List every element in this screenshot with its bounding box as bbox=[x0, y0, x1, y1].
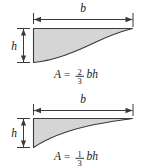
lower-region-shape bbox=[34, 119, 133, 148]
upper-height-label: h bbox=[11, 40, 17, 52]
lower-formula-numerator: 1 bbox=[77, 149, 81, 159]
lower-height-dimension: h bbox=[11, 119, 30, 148]
upper-area-formula: A = 2 3 bh bbox=[53, 67, 98, 87]
upper-formula-symbol: A bbox=[53, 68, 62, 80]
upper-formula-denominator: 3 bbox=[77, 76, 81, 86]
lower-area-formula: A = 1 3 bh bbox=[53, 149, 98, 168]
geometry-figure: b h A = 2 bbox=[0, 0, 143, 167]
lower-height-bottom-arrowhead bbox=[21, 141, 26, 148]
lower-width-right-arrowhead bbox=[126, 108, 133, 114]
upper-width-right-arrowhead bbox=[126, 17, 133, 23]
lower-formula-denominator: 3 bbox=[77, 158, 81, 167]
upper-region-shape bbox=[34, 29, 133, 63]
upper-formula-terms: bh bbox=[87, 68, 99, 80]
lower-panel: b h A = 1 3 bh bbox=[11, 93, 133, 167]
lower-formula-terms: bh bbox=[87, 150, 99, 162]
upper-width-dimension: b bbox=[34, 2, 134, 27]
upper-height-dimension: h bbox=[11, 29, 30, 63]
upper-width-left-arrowhead bbox=[34, 17, 41, 23]
lower-height-top-arrowhead bbox=[21, 119, 26, 126]
upper-width-label: b bbox=[80, 2, 86, 14]
figure-container: b h A = 2 bbox=[0, 0, 143, 167]
upper-height-top-arrowhead bbox=[21, 29, 26, 36]
lower-formula-symbol: A bbox=[53, 150, 62, 162]
lower-width-dimension: b bbox=[34, 93, 134, 116]
upper-formula-equals: = bbox=[64, 68, 70, 80]
lower-width-left-arrowhead bbox=[34, 108, 41, 114]
lower-width-label: b bbox=[80, 93, 86, 105]
upper-panel: b h A = 2 bbox=[11, 2, 133, 86]
lower-formula-equals: = bbox=[64, 150, 70, 162]
upper-height-bottom-arrowhead bbox=[21, 56, 26, 63]
upper-formula-numerator: 2 bbox=[77, 67, 81, 77]
lower-height-label: h bbox=[11, 127, 17, 139]
